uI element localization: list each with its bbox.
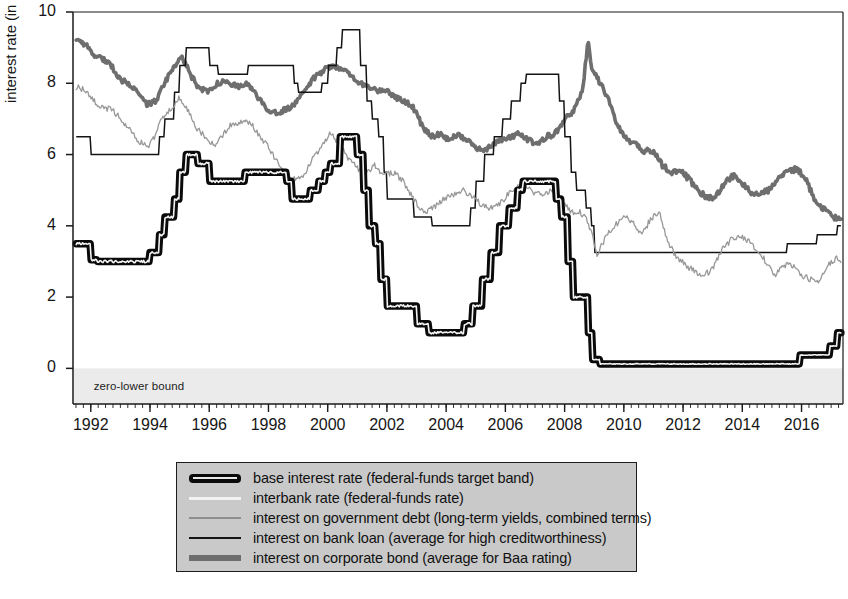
legend-swatch-icon — [187, 468, 243, 488]
zero-lower-bound-band — [74, 368, 843, 404]
x-axis-tick-label: 2008 — [537, 416, 593, 434]
legend-item: interest on bank loan (average for high … — [177, 528, 636, 548]
x-axis-tick-label: 1992 — [63, 416, 119, 434]
x-axis-tick-label: 2012 — [655, 416, 711, 434]
series-bank-loan — [76, 30, 841, 253]
legend-line-sample — [189, 537, 241, 539]
series-base-interest-rate — [76, 137, 841, 364]
legend-line-sample — [189, 497, 241, 500]
legend-swatch-icon — [187, 528, 243, 548]
x-axis-tick-label: 2004 — [418, 416, 474, 434]
x-axis-tick-label: 2010 — [596, 416, 652, 434]
legend-item: interest on corporate bond (average for … — [177, 548, 636, 568]
y-axis-title: interest rate (in per cent) — [2, 0, 19, 103]
legend-item-label: interbank rate (federal-funds rate) — [253, 490, 464, 506]
x-axis-tick-label: 1994 — [122, 416, 178, 434]
x-axis-tick-label: 2002 — [359, 416, 415, 434]
legend-swatch-icon — [187, 508, 243, 528]
legend-item: interbank rate (federal-funds rate) — [177, 488, 636, 508]
legend-item-label: interest on corporate bond (average for … — [253, 550, 572, 566]
legend-item-label: interest on government debt (long-term y… — [253, 510, 652, 526]
x-axis-tick-label: 1998 — [240, 416, 296, 434]
x-axis-tick-label: 1996 — [181, 416, 237, 434]
y-axis-tick-label: 4 — [22, 216, 56, 234]
x-axis-tick-label: 2014 — [714, 416, 770, 434]
legend-item-label: interest on bank loan (average for high … — [253, 530, 606, 546]
chart-legend: base interest rate (federal-funds target… — [176, 462, 637, 572]
y-axis-tick-label: 0 — [22, 358, 56, 376]
y-axis-tick-label: 10 — [22, 2, 56, 20]
legend-item-label: base interest rate (federal-funds target… — [253, 470, 534, 486]
legend-line-sample — [189, 474, 241, 483]
legend-line-sample — [189, 555, 241, 561]
x-axis-tick-label: 2016 — [774, 416, 830, 434]
y-axis-tick-label: 2 — [22, 287, 56, 305]
legend-item: base interest rate (federal-funds target… — [177, 468, 636, 488]
x-axis-tick-label: 2000 — [300, 416, 356, 434]
legend-swatch-icon — [187, 548, 243, 568]
legend-line-sample — [189, 517, 241, 519]
x-axis-tick-label: 2006 — [477, 416, 533, 434]
zero-lower-bound-annotation: zero-lower bound — [94, 380, 184, 392]
legend-swatch-icon — [187, 488, 243, 508]
interest-rate-chart-figure: interest rate (in per cent) 0246810 1992… — [0, 0, 848, 599]
y-axis-tick-label: 6 — [22, 145, 56, 163]
legend-item: interest on government debt (long-term y… — [177, 508, 636, 528]
y-axis-tick-label: 8 — [22, 73, 56, 91]
